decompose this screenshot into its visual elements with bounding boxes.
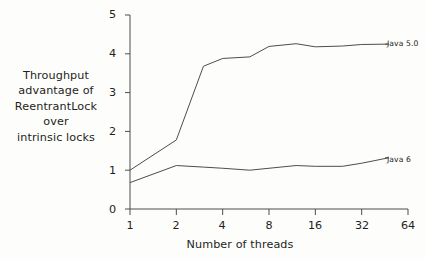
y-tick-marks — [125, 15, 130, 209]
annotation-leader-lines — [385, 44, 389, 158]
series-line-java-5-0 — [130, 44, 389, 170]
series-line-java-6 — [130, 158, 389, 183]
x-tick-marks — [130, 209, 408, 215]
series-lines — [130, 44, 389, 183]
chart-figure: Throughput advantage of ReentrantLock ov… — [0, 0, 425, 261]
plot-area — [0, 0, 425, 261]
